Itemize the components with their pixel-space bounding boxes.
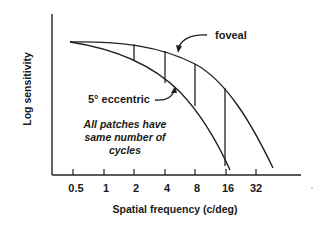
sensitivity-diagram: 0.5 1 2 4 8 16 32 Spatial frequency (c/d…: [0, 0, 319, 228]
tick-label: 0.5: [68, 182, 83, 194]
note-line: same number of: [84, 131, 167, 143]
tick-label: 4: [164, 182, 171, 194]
tick-label: 1: [103, 182, 109, 194]
note-line: cycles: [109, 144, 141, 156]
tick-label: 2: [133, 182, 139, 194]
tick-label: 32: [250, 182, 262, 194]
eccentric-curve: [70, 42, 230, 170]
note-line: All patches have: [83, 118, 167, 130]
x-axis-title: Spatial frequency (c/deg): [113, 203, 238, 215]
x-ticks: [73, 169, 256, 175]
y-axis-title: Log sensitivity: [21, 52, 33, 126]
patch-connectors: [134, 44, 225, 166]
x-tick-labels: 0.5 1 2 4 8 16 32: [68, 182, 262, 194]
foveal-label: foveal: [215, 29, 247, 41]
tick-label: 8: [194, 182, 200, 194]
patches-note: All patches have same number of cycles: [83, 118, 167, 156]
eccentric-arrow: [155, 91, 174, 100]
tick-label: 16: [222, 182, 234, 194]
eccentric-label: 5° eccentric: [88, 93, 150, 105]
scan-speck: [311, 187, 313, 189]
foveal-arrowhead-icon: [176, 45, 182, 53]
foveal-arrow: [179, 35, 207, 47]
